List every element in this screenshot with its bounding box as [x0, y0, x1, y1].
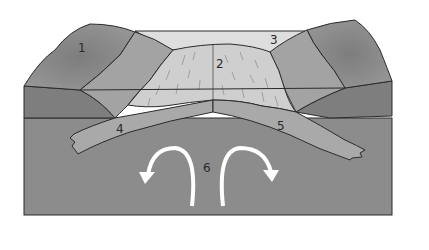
label-3: 3: [270, 33, 278, 47]
label-4: 4: [116, 122, 124, 136]
label-1: 1: [78, 41, 86, 55]
label-2: 2: [216, 57, 224, 71]
label-5: 5: [277, 119, 285, 133]
geology-block-diagram: 1 2 3 4 5 6: [0, 0, 429, 250]
label-6: 6: [203, 161, 211, 175]
